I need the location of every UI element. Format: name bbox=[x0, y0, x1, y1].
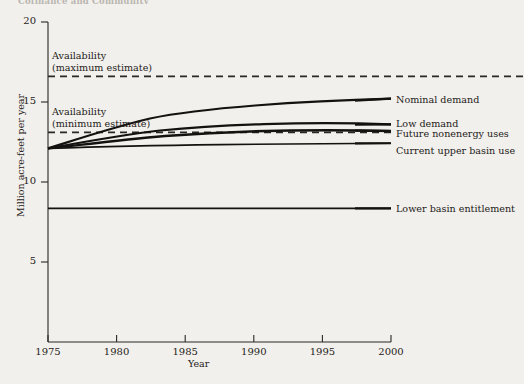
annotation-availability-maximum-line2: (maximum estimate) bbox=[52, 62, 152, 74]
annotation-availability-minimum: Availability (minimum estimate) bbox=[52, 106, 150, 130]
annotation-availability-maximum-line1: Availability bbox=[52, 50, 152, 62]
x-axis-title: Year bbox=[188, 358, 209, 369]
y-axis-ticks bbox=[41, 22, 48, 262]
x-tick-label-1990: 1990 bbox=[234, 346, 274, 357]
series-label-nominal-demand: Nominal demand bbox=[396, 94, 479, 106]
series-line-current-upper-basin-use bbox=[48, 143, 391, 148]
x-tick-label-1995: 1995 bbox=[302, 346, 342, 357]
x-tick-label-1985: 1985 bbox=[165, 346, 205, 357]
chart-page: Cofinance and Community bbox=[0, 0, 524, 384]
series-label-current-upper-basin-use: Current upper basin use bbox=[396, 145, 515, 157]
annotation-availability-maximum: Availability (maximum estimate) bbox=[52, 50, 152, 74]
series-label-lower-basin-entitlement: Lower basin entitlement bbox=[396, 203, 515, 215]
x-tick-label-1980: 1980 bbox=[97, 346, 137, 357]
y-tick-label-5: 5 bbox=[14, 255, 36, 266]
y-axis-title: Million acre-feet per year bbox=[15, 76, 26, 236]
label-leader-lines bbox=[355, 99, 391, 209]
annotation-availability-minimum-line1: Availability bbox=[52, 106, 150, 118]
x-tick-label-1975: 1975 bbox=[28, 346, 68, 357]
y-tick-label-20: 20 bbox=[14, 15, 36, 26]
x-tick-label-2000: 2000 bbox=[371, 346, 411, 357]
x-axis-ticks bbox=[48, 335, 391, 342]
series-label-future-nonenergy-uses: Future nonenergy uses bbox=[396, 128, 509, 140]
annotation-availability-minimum-line2: (minimum estimate) bbox=[52, 118, 150, 130]
